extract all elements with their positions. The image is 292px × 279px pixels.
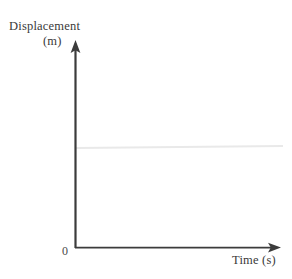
y-axis-label-name: Displacement	[9, 20, 80, 33]
displacement-series-line	[76, 146, 283, 148]
displacement-time-graph: Displacement (m) Time (s) 0	[0, 0, 292, 279]
origin-label: 0	[62, 245, 68, 258]
y-axis-label-unit: (m)	[43, 35, 62, 48]
x-axis-label: Time (s)	[232, 254, 276, 267]
